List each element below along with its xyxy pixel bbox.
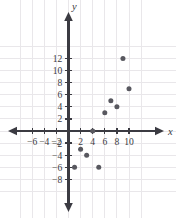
data-point	[120, 56, 125, 61]
y-tick-label: −8	[52, 174, 62, 185]
data-point	[72, 165, 77, 170]
y-axis-label: y	[71, 1, 77, 12]
x-tick-label: −4	[39, 136, 49, 147]
coordinate-plane-svg: −6−4−224681012108642−2−4−6−8 xy	[0, 0, 176, 218]
data-point	[78, 147, 83, 152]
data-point	[108, 98, 113, 103]
y-tick-label: −4	[52, 150, 62, 161]
x-tick-label: 6	[102, 136, 107, 147]
data-point	[114, 104, 119, 109]
data-point	[102, 110, 107, 115]
x-axis-arrow-left	[8, 127, 17, 136]
y-tick-label: 4	[58, 101, 63, 112]
x-axis-arrow-right	[155, 127, 164, 136]
data-point	[127, 86, 132, 91]
y-tick-label: 2	[58, 113, 63, 124]
x-tick-label: 8	[115, 136, 120, 147]
x-tick-label: 4	[90, 136, 95, 147]
y-tick-label: −6	[52, 162, 62, 173]
y-tick-label: 8	[58, 77, 63, 88]
data-point	[96, 165, 101, 170]
y-axis-arrow-down	[64, 203, 73, 212]
axis-names: xy	[71, 1, 173, 137]
y-tick-label: −2	[52, 138, 62, 149]
y-axis-arrow-up	[64, 12, 73, 21]
y-tick-label: 12	[53, 53, 63, 64]
y-tick-label: 10	[53, 65, 63, 76]
x-axis-label: x	[167, 126, 173, 137]
x-tick-label: −6	[27, 136, 37, 147]
data-point	[90, 129, 95, 134]
data-point	[84, 153, 89, 158]
y-tick-label: 6	[58, 89, 63, 100]
grid-lines	[0, 0, 176, 218]
scatter-plot-figure: −6−4−224681012108642−2−4−6−8 xy	[0, 0, 176, 218]
x-tick-label: 2	[78, 136, 83, 147]
x-tick-label: 10	[124, 136, 134, 147]
